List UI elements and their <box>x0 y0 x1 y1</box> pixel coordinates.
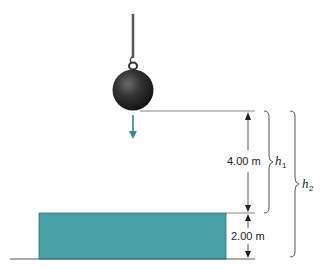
brace-h2 <box>290 111 299 257</box>
diagram-canvas: 4.00 m 2.00 m h 1 h 2 <box>0 0 332 275</box>
wrecking-ball <box>113 70 154 111</box>
label-h1-subscript: 1 <box>282 161 287 170</box>
down-arrow-icon <box>129 115 137 139</box>
hanging-rod <box>129 14 137 70</box>
label-h1: h <box>275 153 282 168</box>
label-h2-subscript: 2 <box>309 184 314 193</box>
label-4m: 4.00 m <box>227 155 261 167</box>
teal-box <box>39 213 226 259</box>
brace-h1 <box>264 111 273 213</box>
label-2m: 2.00 m <box>231 230 265 242</box>
label-h2: h <box>302 176 309 191</box>
